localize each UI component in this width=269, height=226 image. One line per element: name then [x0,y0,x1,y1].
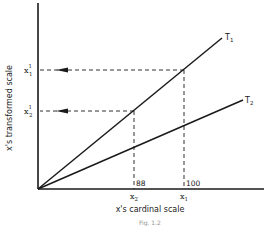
y-mark-x1-prime: x11 [24,63,33,77]
x-mark-x2: x2 [130,192,138,202]
x-mark-x1: x1 [180,192,188,202]
y-axis-label: x's transformed scale [5,65,14,151]
figure-caption: Fig. 1.2 [139,219,161,226]
x-axis-label: x's cardinal scale [116,205,185,214]
line-t2-label: T2 [244,96,253,106]
line-t1 [38,38,222,189]
line-t1-label: T1 [224,33,233,43]
transformation-diagram: T1 T2 x11 x12 88 100 x2 x1 x's cardinal … [0,0,269,226]
x-tick-100: 100 [186,179,201,188]
arrowhead-left-icon [56,109,68,114]
y-mark-x2-prime: x12 [24,104,33,118]
arrowhead-left-icon [56,68,68,73]
x-tick-88: 88 [136,179,146,188]
line-t2 [38,100,243,189]
